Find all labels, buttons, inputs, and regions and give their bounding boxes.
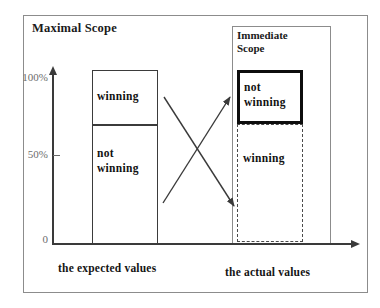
y-axis-label-0: 0 bbox=[8, 233, 48, 245]
y-axis-tick-50 bbox=[53, 155, 60, 156]
y-axis-arrowhead-icon bbox=[49, 66, 57, 75]
x-axis-arrowhead-icon bbox=[351, 240, 360, 248]
scope-diagram: Maximal Scope Immediate Scope 100% 50% 0… bbox=[0, 0, 380, 308]
expected-not-winning-label: not winning bbox=[97, 146, 139, 176]
actual-winning-label: winning bbox=[243, 151, 285, 166]
caption-expected-values: the expected values bbox=[58, 262, 156, 274]
expected-winning-label: winning bbox=[97, 89, 139, 104]
actual-winning-box bbox=[237, 124, 303, 242]
maximal-scope-title: Maximal Scope bbox=[32, 21, 117, 36]
immediate-scope-title: Immediate Scope bbox=[237, 29, 288, 54]
y-axis-line bbox=[52, 71, 54, 244]
y-axis-label-50: 50% bbox=[8, 148, 48, 160]
expected-values-bar-divider bbox=[92, 124, 158, 126]
caption-actual-values: the actual values bbox=[225, 266, 310, 278]
actual-not-winning-label: not winning bbox=[244, 80, 286, 110]
y-axis-label-100: 100% bbox=[8, 71, 48, 83]
